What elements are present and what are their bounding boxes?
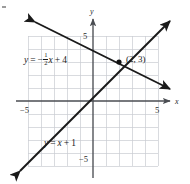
line1-equation-label: y=−12x+4 — [24, 52, 67, 67]
y-tick-5: 5 — [83, 32, 87, 41]
line-x-plus-1 — [20, 21, 170, 171]
intersection-point-label: (2, 3) — [126, 55, 146, 64]
coordinate-plane-figure: y x 5 −5 −5 5 y=−12x+4 y=x+1 (2, 3) — [0, 0, 190, 184]
line2-eq-constant: 1 — [71, 138, 76, 148]
line1-eq-minus: − — [38, 55, 43, 65]
line1-eq-constant: 4 — [62, 55, 67, 65]
line1-eq-fraction: 12 — [43, 52, 48, 67]
line1-eq-denominator: 2 — [43, 60, 48, 67]
line2-equation-label: y=x+1 — [44, 139, 76, 149]
y-axis-label: y — [90, 8, 94, 16]
line1-eq-plus: + — [55, 55, 60, 65]
x-axis-label: x — [175, 98, 179, 106]
line2-eq-lhs: y — [44, 138, 48, 148]
graph-canvas — [0, 0, 190, 184]
line1-eq-lhs: y — [24, 55, 28, 65]
intersection-point-marker — [116, 59, 121, 64]
x-tick-5: 5 — [155, 106, 159, 115]
line2-eq-variable: x — [58, 138, 62, 148]
line2-eq-plus: + — [64, 138, 69, 148]
line1-eq-equals: = — [30, 55, 35, 65]
line1-eq-variable: x — [49, 55, 53, 65]
y-tick-negative-5: −5 — [79, 155, 88, 164]
line2-eq-equals: = — [50, 138, 55, 148]
x-tick-negative-5: −5 — [20, 106, 29, 115]
